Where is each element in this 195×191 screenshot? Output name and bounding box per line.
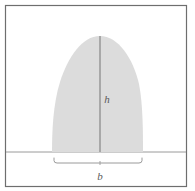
figure-container: h b: [0, 0, 195, 191]
geometry-diagram: h b: [0, 0, 195, 191]
base-measure-bracket: [54, 158, 142, 163]
height-label: h: [104, 93, 110, 105]
parabolic-region-shape: [52, 36, 143, 152]
base-label: b: [97, 170, 103, 182]
